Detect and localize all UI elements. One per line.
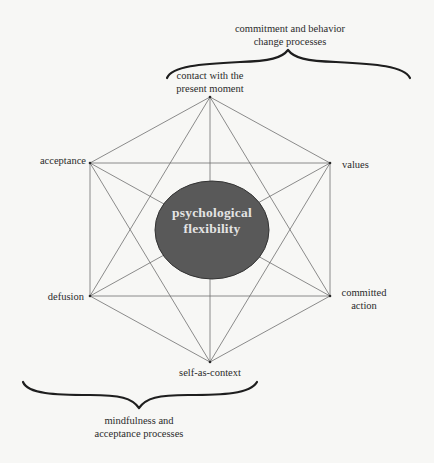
node-label-values: values [342, 158, 402, 171]
vertex-committed-action [329, 295, 332, 298]
edge-self-defusion [90, 296, 210, 362]
node-label-acceptance: acceptance [10, 154, 86, 167]
edge-present-values [210, 97, 330, 163]
vertex-acceptance [89, 162, 92, 165]
node-label-defusion: defusion [20, 290, 84, 303]
group-label-commitment: commitment and behavior change processes [218, 22, 362, 48]
vertex-present-moment [209, 96, 212, 99]
node-label-self-as-context: self-as-context [160, 366, 260, 379]
group-label-mindfulness: mindfulness and acceptance processes [79, 414, 199, 440]
node-label-committed-action: committed action [334, 286, 394, 312]
vertex-defusion [89, 295, 92, 298]
vertex-self-as-context [209, 361, 212, 364]
edge-committed-self [210, 296, 330, 362]
brace-mindfulness-icon [23, 382, 257, 408]
vertex-values [329, 162, 332, 165]
edge-acceptance-present [90, 97, 210, 163]
center-label-psychological-flexibility: psychological flexibility [155, 205, 269, 237]
node-label-present-moment: contact with the present moment [160, 69, 260, 95]
